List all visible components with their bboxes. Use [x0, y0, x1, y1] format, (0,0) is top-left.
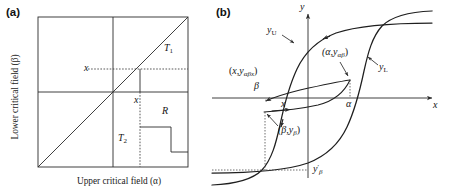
leader-yU	[282, 35, 294, 43]
point-label-beta-ybeta: (β,yβ)	[278, 125, 300, 137]
minor-loop-lower-arm	[264, 80, 350, 112]
leader-yL	[368, 57, 378, 65]
panel-b-y-axis-label: y	[300, 2, 304, 12]
curve-label-y-lower: yL	[379, 62, 388, 74]
point-label-alpha-yab: (α,yαβ)	[322, 47, 348, 59]
ybp-subscript: β	[319, 168, 323, 176]
curve-label-y-upper: yU	[267, 25, 277, 37]
minor-loop-direction-arrow	[272, 110, 290, 112]
panel-b-x-axis-label: x	[433, 100, 437, 110]
leader-alpha-y-ab	[340, 62, 348, 76]
leader-beta-y-b	[267, 114, 278, 126]
ptx-subscript: αβx	[244, 70, 254, 78]
ptx-close: )	[254, 65, 257, 76]
curve-y-upper-arrow-2	[323, 36, 330, 39]
yL-subscript: L	[383, 66, 387, 74]
ptab-close: )	[345, 46, 348, 57]
ptb-close: )	[297, 124, 300, 135]
curve-y-lower	[212, 11, 432, 173]
axis-mark-alpha: α	[346, 99, 351, 109]
ptx-base: x,y	[232, 65, 243, 76]
ptab-subscript: αβ	[338, 51, 345, 59]
yU-subscript: U	[271, 29, 276, 37]
axis-mark-beta: β	[254, 81, 259, 91]
panel-b-plot	[0, 0, 449, 196]
figure-container: (a) (b) Upper critical field (α) Lower c…	[0, 0, 449, 196]
label-y-beta-prime: y′β	[313, 164, 322, 176]
ptb-base: (β,y	[278, 124, 293, 135]
ptab-base: (α,y	[322, 46, 338, 57]
axis-mark-x: x	[281, 99, 285, 109]
point-label-x-yabx: (x,yαβx)	[229, 66, 257, 78]
